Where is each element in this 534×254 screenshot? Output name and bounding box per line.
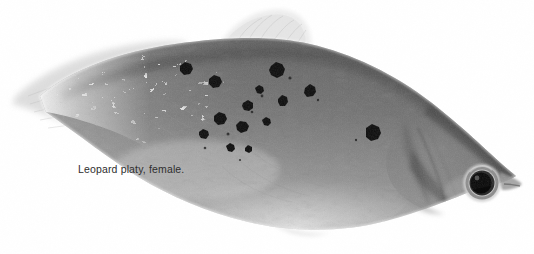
image-canvas: Leopard platy, female. xyxy=(0,0,534,254)
leopard-platy-photograph xyxy=(0,0,534,254)
fish-figure xyxy=(0,0,534,254)
figure-caption: Leopard platy, female. xyxy=(78,163,184,175)
